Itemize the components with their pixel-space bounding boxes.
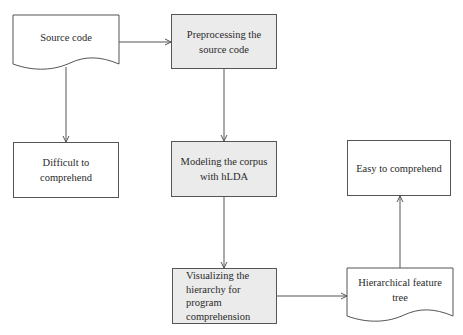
node-source-code-label: Source code: [40, 30, 92, 45]
node-modeling: Modeling the corpus with hLDA: [171, 141, 277, 197]
node-easy: Easy to comprehend: [347, 140, 451, 196]
node-preprocessing-label: Preprocessing the source code: [187, 27, 261, 57]
node-hierarchical-tree: Hierarchical feature tree: [347, 268, 453, 312]
node-visualizing-label: Visualizing the hierarchy for program co…: [186, 269, 250, 323]
node-visualizing: Visualizing the hierarchy for program co…: [172, 268, 277, 324]
node-hierarchical-tree-label: Hierarchical feature tree: [358, 275, 442, 305]
node-difficult: Difficult to comprehend: [13, 142, 119, 198]
node-modeling-label: Modeling the corpus with hLDA: [181, 154, 268, 184]
node-difficult-label: Difficult to comprehend: [40, 155, 92, 185]
node-source-code: Source code: [13, 15, 119, 59]
node-preprocessing: Preprocessing the source code: [171, 14, 277, 69]
node-easy-label: Easy to comprehend: [356, 161, 442, 176]
